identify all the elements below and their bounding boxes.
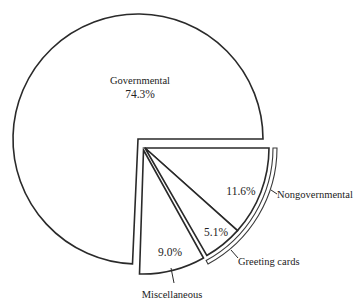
value-nongovernmental: 11.6% xyxy=(226,185,256,197)
leader-greeting-cards xyxy=(231,250,238,258)
label-nongovernmental: Nongovernmental xyxy=(277,189,353,200)
value-greeting-cards: 5.1% xyxy=(204,226,228,238)
pie-chart: Governmental 74.3% 11.6% Nongovernmental… xyxy=(0,0,362,307)
value-governmental: 74.3% xyxy=(125,88,155,100)
label-greeting-cards: Greeting cards xyxy=(238,256,300,267)
value-miscellaneous: 9.0% xyxy=(158,246,182,258)
label-governmental: Governmental xyxy=(110,75,170,86)
label-miscellaneous: Miscellaneous xyxy=(142,289,203,300)
